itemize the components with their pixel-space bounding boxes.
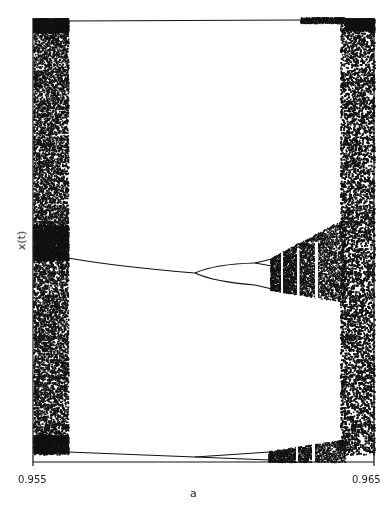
x-tick-right: 0.965 [352,474,381,485]
y-axis-label: x(t) [15,231,28,250]
x-tick-left: 0.955 [18,474,47,485]
x-axis-label: a [190,487,197,500]
bifurcation-plot [0,0,392,511]
